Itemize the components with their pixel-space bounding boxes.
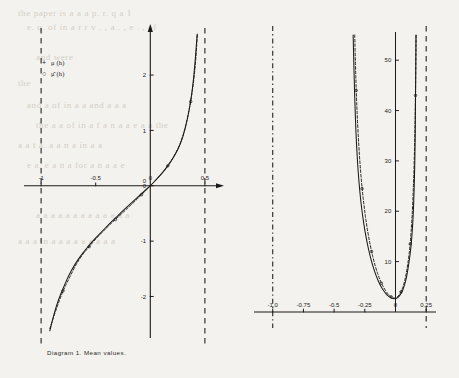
y-tick-label: 2 xyxy=(143,72,147,78)
diagram-2-panel: -1.0-0.75-0.5-0.2500.251020304050 +σ² (h… xyxy=(232,0,459,378)
x-tick-label: 0.25 xyxy=(420,302,432,308)
y-tick-label: 30 xyxy=(385,158,392,164)
y-axis-arrow-icon xyxy=(148,24,153,32)
legend-entry: +μ (h) xyxy=(42,57,65,68)
series-point-marker xyxy=(114,218,117,221)
y-tick-label: 10 xyxy=(385,259,392,265)
x-tick-label: -0.5 xyxy=(329,302,340,308)
diagram-1-panel: -1-0.500.5-2-10120 +μ (h)○μ̂ (h) Diagram… xyxy=(0,0,235,378)
circle-marker-icon: ○ xyxy=(42,70,51,77)
series-curve-theoretical xyxy=(50,34,197,331)
y-tick-label: 20 xyxy=(385,208,392,214)
x-tick-label: -1.0 xyxy=(268,302,279,308)
x-tick-label: -0.25 xyxy=(358,302,372,308)
y-tick-label: -2 xyxy=(141,294,147,300)
diagram-1-plot: -1-0.500.5-2-10120 xyxy=(0,0,235,345)
x-axis-arrow-icon xyxy=(216,183,224,188)
origin-label: 0 xyxy=(143,178,147,184)
diagram-1-legend: +μ (h)○μ̂ (h) xyxy=(42,57,65,79)
diagram-2-plot: -1.0-0.75-0.5-0.2500.251020304050 xyxy=(232,0,459,345)
y-tick-label: 50 xyxy=(385,57,392,63)
series-curve-estimated xyxy=(50,35,197,328)
x-tick-label: 0 xyxy=(149,175,153,181)
y-tick-label: 40 xyxy=(385,108,392,114)
y-tick-label: 1 xyxy=(143,128,147,134)
x-tick-label: 0 xyxy=(394,302,398,308)
legend-entry-label: μ̂ (h) xyxy=(51,70,65,77)
legend-entry-label: μ (h) xyxy=(51,59,65,66)
legend-entry: ○μ̂ (h) xyxy=(42,68,65,79)
diagram-1-caption: Diagram 1. Mean values. xyxy=(47,349,126,356)
x-tick-label: 0.5 xyxy=(201,175,210,181)
series-point-marker xyxy=(140,193,143,196)
series-point-marker xyxy=(62,290,65,293)
x-tick-label: -0.75 xyxy=(297,302,311,308)
y-tick-label: -1 xyxy=(141,238,147,244)
x-tick-label: -1 xyxy=(38,175,44,181)
x-tick-label: -0.5 xyxy=(91,175,102,181)
plus-marker-icon: + xyxy=(42,59,51,66)
figure-sheet: the paper is a a a p. r. q a 1e. q. of i… xyxy=(0,0,459,378)
